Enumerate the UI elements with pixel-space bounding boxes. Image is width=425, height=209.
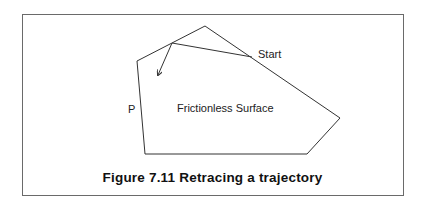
surface-label: Frictionless Surface [177, 102, 274, 114]
figure-caption: Figure 7.11 Retracing a trajectory [0, 170, 425, 185]
point-p-label: P [128, 103, 135, 115]
trajectory-path [158, 43, 252, 75]
start-label: Start [258, 48, 281, 60]
surface-boundary [137, 26, 340, 154]
